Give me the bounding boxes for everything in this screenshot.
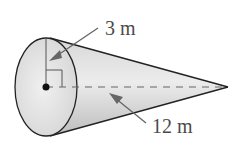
radius-label: 3 m bbox=[105, 17, 136, 39]
center-point bbox=[43, 84, 50, 91]
cone-figure: 3 m 12 m bbox=[0, 0, 243, 147]
height-label: 12 m bbox=[152, 115, 193, 137]
cone-diagram: 3 m 12 m bbox=[0, 0, 243, 147]
